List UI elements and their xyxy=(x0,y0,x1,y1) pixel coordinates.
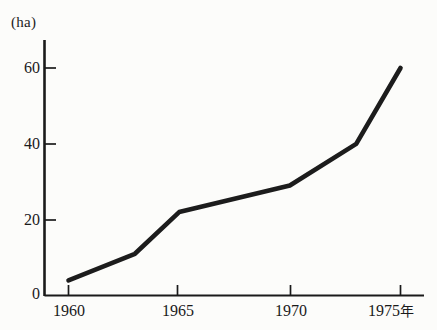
data-series-line xyxy=(69,68,401,280)
y-tick-label-60: 60 xyxy=(6,60,40,76)
x-tick-label-1975: 1975年 xyxy=(368,303,430,319)
x-tick-label-1975-text: 1975 xyxy=(368,302,400,319)
chart-plot-area xyxy=(0,0,437,330)
x-axis-suffix-label: 年 xyxy=(400,303,414,319)
x-tick-label-1960: 1960 xyxy=(38,303,100,319)
y-tick-label-0: 0 xyxy=(6,286,40,302)
y-tick-label-20: 20 xyxy=(6,212,40,228)
line-chart: (ha) 60 40 20 0 1960 1965 1970 1975年 xyxy=(0,0,437,330)
y-tick-label-40: 40 xyxy=(6,136,40,152)
y-axis-unit-label: (ha) xyxy=(11,14,36,31)
x-tick-label-1965: 1965 xyxy=(147,303,209,319)
x-tick-label-1970: 1970 xyxy=(260,303,322,319)
